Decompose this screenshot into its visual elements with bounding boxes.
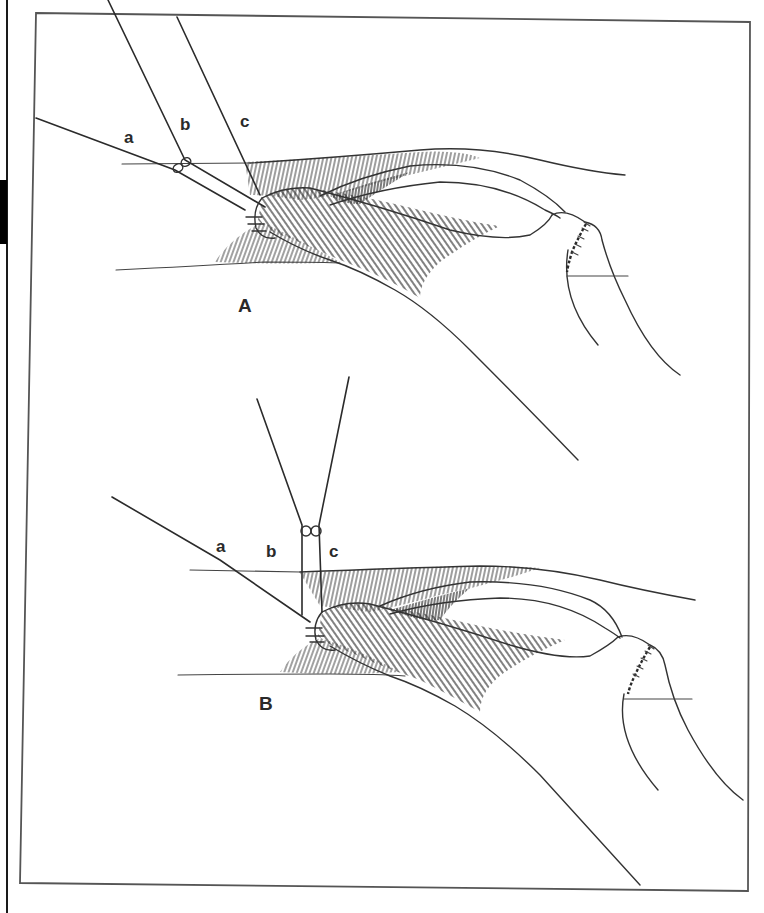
- thread-c: [177, 17, 260, 195]
- label-thread-c-panel-b: c: [329, 542, 338, 561]
- panel-label-b: B: [259, 693, 273, 714]
- label-thread-a-panel-a: a: [124, 128, 134, 147]
- label-thread-b-panel-a: b: [180, 115, 190, 134]
- panel-label-a: A: [238, 295, 252, 316]
- panel-b: a b c B: [112, 377, 743, 885]
- label-thread-b-panel-b: b: [266, 542, 276, 561]
- thread-b-b: [257, 399, 302, 615]
- label-thread-a-panel-b: a: [216, 537, 226, 556]
- suture-line-b: [628, 647, 650, 694]
- thread-a-b: [112, 497, 310, 622]
- surgical-illustration: a b c A a b c B: [0, 0, 764, 913]
- panel-a: a b c A: [36, 0, 680, 460]
- suture-line-a: [567, 224, 586, 272]
- label-thread-c-panel-a: c: [240, 112, 249, 131]
